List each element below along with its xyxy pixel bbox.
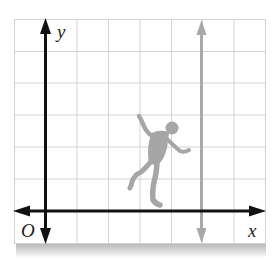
- x-axis-label: x: [247, 220, 257, 241]
- coordinate-plane-diagram: y x O: [0, 0, 276, 259]
- grid-shadow: [16, 244, 266, 258]
- y-axis-label: y: [55, 21, 66, 42]
- origin-label: O: [21, 220, 35, 241]
